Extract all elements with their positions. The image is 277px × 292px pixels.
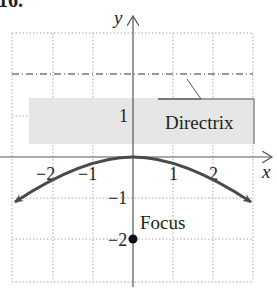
directrix-callout: Directrix bbox=[29, 78, 254, 144]
y-tick: −1 bbox=[108, 188, 127, 208]
parabola-curve bbox=[133, 157, 251, 202]
problem-number: 16. bbox=[0, 0, 23, 12]
y-tick: −2 bbox=[108, 230, 127, 250]
focus-label: Focus bbox=[140, 212, 185, 233]
y-axis-label: y bbox=[112, 7, 123, 28]
x-tick: 1 bbox=[169, 164, 178, 184]
focus-point bbox=[129, 235, 138, 244]
x-axis-label: x bbox=[261, 161, 271, 182]
directrix-label: Directrix bbox=[165, 112, 234, 133]
parabola-diagram: 16. bbox=[0, 0, 277, 292]
graph-svg: Directrix x y −2 −1 1 2 1 −1 −2 Focus bbox=[0, 0, 277, 292]
y-tick: 1 bbox=[119, 106, 128, 126]
